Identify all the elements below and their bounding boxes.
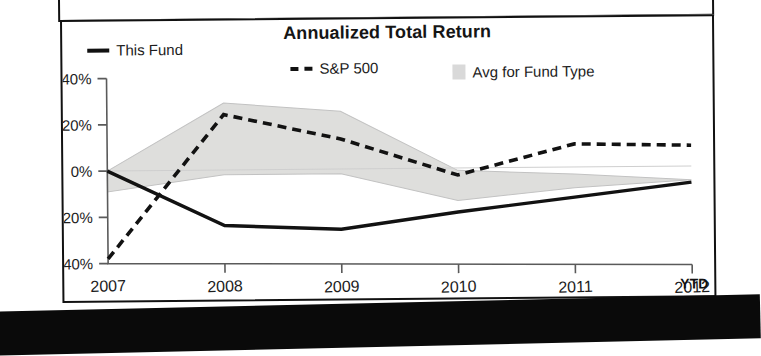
x-axis-tick-label: 2008 xyxy=(207,277,243,295)
x-axis-tick-label: 2011 xyxy=(558,278,593,296)
chart-inner: Annualized Total Return This Fund S&P 50… xyxy=(62,16,714,301)
y-axis-tick-label: 40% xyxy=(62,70,92,87)
scan-artifact-bottom-bar xyxy=(0,294,761,356)
y-axis-tick-label: 20% xyxy=(62,116,92,133)
chart-frame: Annualized Total Return This Fund S&P 50… xyxy=(60,14,716,303)
x-axis-tick-label: 2010 xyxy=(441,278,477,296)
y-axis-tick-label: -20% xyxy=(62,209,93,226)
x-axis-tick-label: 2007 xyxy=(90,277,126,295)
x-axis-suffix-label: YTD xyxy=(680,275,708,291)
x-axis-tick-label: 2009 xyxy=(324,277,360,295)
y-axis-tick-label: 0% xyxy=(71,163,93,180)
plot-area: 40%20%0%-20%-40%200720082009201020112012 xyxy=(62,16,714,301)
y-axis-tick-label: -40% xyxy=(62,255,93,272)
